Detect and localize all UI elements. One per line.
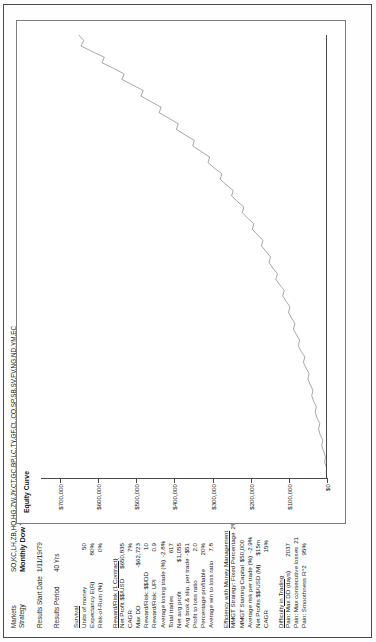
stats-row-label: Reward/Risk: $$/DD [142,569,150,628]
stats-row-value: 617 [167,543,175,553]
stats-group-title: Reward/Risk (1 Contract) [111,543,118,628]
y-axis-tick [174,478,175,483]
markets-label: Markets [10,572,18,628]
stats-row: Reward/Risk: UPI0.9 [150,543,158,628]
stats-row-value: 95% [300,543,308,555]
stats-row-label: CAGR [262,607,270,628]
stats-group-title: Efficiency with Money Management [222,540,229,628]
stats-row: Risk-of-Ruin (%)0% [96,543,104,628]
stats-row-label: Total trades [167,593,175,628]
stats-row: Reward/Risk: $$/DD10 [142,543,150,628]
y-axis-tick-label: $500,000 [133,484,140,510]
stats-row: Net Profits $$/USD (M)$15m [254,540,262,628]
stats-row-label: Avg brok.& slip. per trade [183,556,191,628]
chart-plot-area: $700,000$600,000$500,000$400,000$300,000… [41,35,327,479]
stats-row: Average losing trade (%)-2.8% [159,543,167,628]
stats-row: Pain: Max DD (days)2037 [284,543,292,628]
stats-row-label: Net Profit $$/USD [118,576,126,628]
results-start-date-label: Results Start Date [36,572,44,628]
stats-row: Net avg profit$1,055 [175,543,183,628]
stats-row-label: Max DD [134,603,142,628]
stats-row-value: $1,055 [175,543,183,562]
stats-row: Average win to loss ratio7.8 [207,543,215,628]
stats-row-value: -2.8% [159,541,167,557]
stats-row-label: Pain: Smoothness R^2 [300,562,308,628]
stats-row-value: $50,000 [238,540,246,562]
stats-row-value: 21 [292,537,300,544]
stats-row: MMGT Strategy: Fixed Percentage2% [229,540,237,628]
stats-row: Avg brok.& slip. per trade-$51 [183,543,191,628]
stats-row-value: 10 [142,543,150,550]
stats-group: SurvivalUnits of money50Expectancy E(R)8… [72,543,104,628]
stats-row-value: 50 [80,543,88,550]
stats-row-label: Average win to loss ratio [207,558,215,628]
stats-row-label: MMGT Starting Capital [238,562,246,628]
stats-row-label: Average losing trade (%) [159,557,167,628]
y-axis-tick-label: $700,000 [57,484,64,510]
stats-row-value: -$51 [183,543,191,555]
stats-group: Efficiency with Money ManagementMMGT Str… [222,540,270,628]
strategy-label: Strategy [18,572,26,628]
stats-group: Reward/Risk (1 Contract)Net Profit $$/US… [111,543,215,628]
stats-row-value: 7% [126,543,134,552]
stats-row-value: 20% [199,543,207,555]
y-axis-tick [213,478,214,483]
stats-row-label: MMGT Strategy: Fixed Percentage [229,530,237,629]
y-axis-tick [251,478,252,483]
equity-curve-line [41,35,327,479]
stats-row: Pain: Max consecutive losses21 [292,543,300,628]
stats-row: Average risk per trade (%)-2.9% [246,540,254,628]
stats-group-title: Survival [72,543,79,628]
stats-row-label: Net avg profit [175,588,183,628]
stats-row-value: -$62,723 [134,543,142,567]
stats-row: Percentage profitable20% [199,543,207,628]
screenshot-viewport: Markets SO,KC,LH,ZB,HO,HG,ZW,JY,CT,GC,BP… [0,0,376,642]
y-axis-tick-label: $200,000 [247,484,254,510]
y-axis-tick-label: $300,000 [209,484,216,510]
stats-row: Net Profit $$/USD$650,835 [118,543,126,628]
stats-row: Units of money50 [80,543,88,628]
stats-row: Pain: Smoothness R^295% [300,543,308,628]
stats-row-label: Net Profits $$/USD (M) [254,562,262,628]
stats-row-label: Profit to loss ratio [191,577,199,628]
stats-group: Difficulty in TradingPain: Max DD (days)… [277,543,309,628]
chart-title: Equity Curve [23,471,30,513]
y-axis-tick [327,478,328,483]
stats-row-value: 2.0 [191,543,199,552]
stats-row-value: 0% [96,543,104,552]
results-period-label: Results Period [53,572,61,628]
stats-row-label: Units of money [80,584,88,628]
stats-row-label: Pain: Max consecutive losses [292,544,300,628]
y-axis-tick-label: $600,000 [95,484,102,510]
results-period-value: 40 Yrs [53,554,61,572]
stats-row-value: 80% [88,543,96,555]
stats-row-label: Average risk per trade (%) [246,553,254,628]
stats-row-label: Percentage profitable [199,566,207,628]
stats-row: Total trades617 [167,543,175,628]
y-axis-tick-label: $400,000 [171,484,178,510]
stats-row-value: 15% [262,540,270,552]
stats-row: Expectancy E(R)80% [88,543,96,628]
stats-row: Max DD-$62,723 [134,543,142,628]
stats-row: CAGR7% [126,543,134,628]
y-axis-tick [60,478,61,483]
stats-row-value: 0.9 [150,543,158,552]
stats-row-label: Reward/Risk: UPI [150,576,158,628]
y-axis-tick-label: $0 [324,484,331,491]
report-page: Markets SO,KC,LH,ZB,HO,HG,ZW,JY,CT,GC,BP… [0,0,376,642]
y-axis-tick [136,478,137,483]
stats-row: CAGR15% [262,540,270,628]
stats-row-value: -2.9% [246,537,254,553]
stats-row-value: 7.8 [207,543,215,552]
stats-row-label: CAGR [126,607,134,628]
y-axis-tick [98,478,99,483]
results-start-date-value: 1/11/19/79 [36,542,44,572]
y-axis-tick-label: $100,000 [285,484,292,510]
stats-row: Profit to loss ratio2.0 [191,543,199,628]
stats-row: MMGT Starting Capital$50,000 [238,540,246,628]
stats-row-value: $15m [254,540,262,555]
y-axis-tick [289,478,290,483]
stats-row-value: 2037 [284,543,292,557]
stats-row-label: Pain: Max DD (days) [284,568,292,628]
stats-row-value: $650,835 [118,543,126,569]
